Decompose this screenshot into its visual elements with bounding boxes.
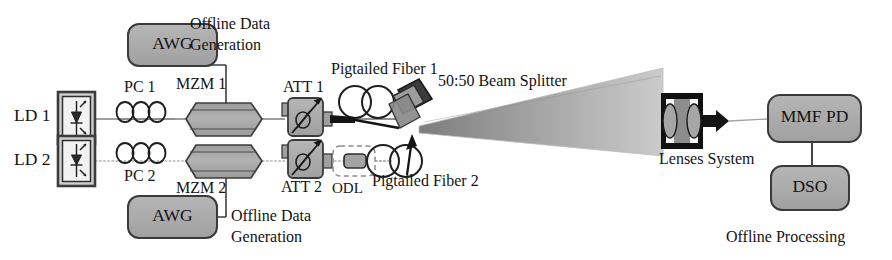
attenuator-1-icon[interactable] [282,98,332,137]
beam-splitter-label: 50:50 Beam Splitter [438,72,567,90]
att-1-label: ATT 1 [283,78,324,96]
optical-setup-diagram: LD 1 PC 1 MZM 1 AWG Offline Data Generat… [0,0,892,260]
offline-data-generation-1-line1: Offline Data [190,15,270,33]
att-2-label: ATT 2 [281,178,322,196]
pigtailed-fiber-1-icon[interactable] [339,86,394,118]
offline-data-generation-1-line2: Generation [190,36,261,54]
mzm-1-icon[interactable] [186,103,262,136]
pc-1-label: PC 1 [124,78,156,96]
mzm-2-icon[interactable] [186,145,262,178]
lens-pair-icon[interactable] [661,93,703,149]
mzm-2-label: MZM 2 [176,179,226,197]
pigtailed-fiber-1-label: Pigtailed Fiber 1 [331,60,438,78]
dso-label: DSO [771,177,849,197]
polarization-controller-2-icon[interactable] [117,143,166,163]
mmf-pd-label: MMF PD [768,107,861,127]
awg-2-label: AWG [128,206,217,226]
fiber-1-connector [330,115,399,128]
offline-data-generation-2-line1: Offline Data [231,207,311,225]
mzm-1-label: MZM 1 [176,75,226,93]
offline-data-generation-2-line2: Generation [231,228,302,246]
lenses-system-label: Lenses System [659,150,755,168]
pigtailed-fiber-2-label: Pigtailed Fiber 2 [372,172,479,190]
pc-2-label: PC 2 [124,167,156,185]
ld-2-label: LD 2 [14,150,50,170]
detector-feed-beam [703,110,768,132]
laser-diode-2[interactable] [58,136,95,186]
offline-processing-label: Offline Processing [726,228,845,246]
odl-label: ODL [332,180,363,197]
beam-splitter-icon[interactable] [389,79,432,128]
ld-1-label: LD 1 [14,106,50,126]
attenuator-2-icon[interactable] [282,140,332,179]
